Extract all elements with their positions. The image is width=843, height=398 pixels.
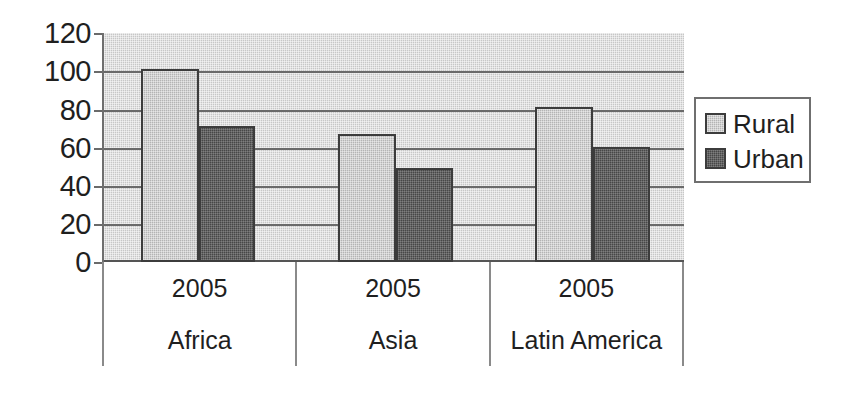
urban-swatch-icon <box>705 148 726 169</box>
legend-item-rural: Rural <box>705 106 809 141</box>
y-tick-label-20: 20 <box>0 210 91 239</box>
y-tick-label-120: 120 <box>0 19 91 48</box>
bar-asia-rural <box>338 134 396 262</box>
rural-swatch-icon <box>705 113 726 134</box>
legend-label-urban: Urban <box>733 146 804 172</box>
y-tick-label-100: 100 <box>0 57 91 86</box>
category-name-asia: Asia <box>297 314 488 366</box>
category-year-asia: 2005 <box>297 262 488 314</box>
bar-africa-urban <box>199 126 255 262</box>
legend: Rural Urban <box>694 97 811 183</box>
category-column-asia: 2005 Asia <box>297 262 490 366</box>
y-tick-label-40: 40 <box>0 172 91 201</box>
bar-latin-america-urban <box>593 147 650 262</box>
plot-area <box>102 33 684 262</box>
bar-latin-america-rural <box>535 107 593 262</box>
bar-asia-urban <box>396 168 453 262</box>
category-year-africa: 2005 <box>104 262 295 314</box>
y-tick-label-60: 60 <box>0 134 91 163</box>
legend-label-rural: Rural <box>733 111 795 137</box>
category-name-latin-america: Latin America <box>491 314 682 366</box>
y-axis: 120 100 80 60 40 20 0 <box>0 0 91 398</box>
category-name-africa: Africa <box>104 314 295 366</box>
legend-item-urban: Urban <box>705 141 809 176</box>
bar-africa-rural <box>141 69 199 262</box>
category-column-latin-america: 2005 Latin America <box>491 262 682 366</box>
category-year-latin-america: 2005 <box>491 262 682 314</box>
category-column-africa: 2005 Africa <box>104 262 297 366</box>
y-tick-label-0: 0 <box>0 248 91 277</box>
x-axis-category-table: 2005 Africa 2005 Asia 2005 Latin America <box>102 262 684 366</box>
bar-chart: 120 100 80 60 40 20 0 2005 <box>0 0 843 398</box>
y-tick-label-80: 80 <box>0 96 91 125</box>
